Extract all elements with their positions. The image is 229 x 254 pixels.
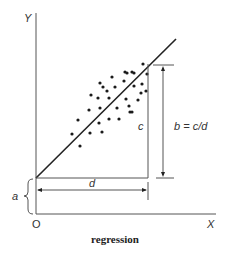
data-point [122, 79, 125, 82]
data-point [127, 104, 130, 107]
data-point [100, 130, 103, 133]
data-point [89, 93, 92, 96]
intercept-brace-icon [24, 179, 33, 214]
data-point [87, 108, 90, 111]
data-point [132, 84, 135, 87]
slope-arrow-down-icon [161, 172, 165, 177]
regression-diagram: Y X O c b = c/d d a regression [0, 0, 229, 254]
data-point [117, 117, 120, 120]
data-point [113, 85, 116, 88]
data-point [139, 91, 142, 94]
origin-label: O [32, 218, 41, 230]
data-point [98, 81, 101, 84]
slope-arrow-up-icon [161, 66, 165, 71]
data-point [115, 106, 118, 109]
y-axis-label: Y [24, 12, 32, 24]
caption: regression [91, 233, 139, 245]
data-point [105, 89, 108, 92]
data-point [76, 118, 79, 121]
x-axis-label: X [206, 218, 215, 230]
data-point [130, 110, 133, 113]
regression-line [36, 39, 176, 178]
data-point [101, 85, 104, 88]
slope-formula-label: b = c/d [174, 120, 208, 132]
data-point [70, 132, 73, 135]
run-arrow-right-icon [142, 188, 147, 192]
data-point [110, 75, 113, 78]
data-point [107, 96, 110, 99]
run-label: d [89, 177, 96, 189]
data-point [144, 89, 147, 92]
data-point [96, 96, 99, 99]
data-point [132, 71, 135, 74]
data-point [88, 131, 91, 134]
data-point [136, 98, 139, 101]
rise-label: c [138, 120, 144, 132]
data-point [107, 117, 110, 120]
data-point [124, 97, 127, 100]
data-point [125, 71, 128, 74]
data-point [78, 144, 81, 147]
data-point [140, 82, 143, 85]
run-arrow-left-icon [37, 188, 42, 192]
data-point [141, 62, 144, 65]
data-point [97, 121, 100, 124]
data-point [98, 106, 101, 109]
intercept-label: a [12, 190, 18, 202]
